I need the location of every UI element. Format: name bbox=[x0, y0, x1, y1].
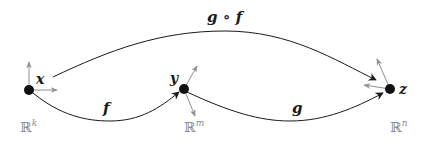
space-exponent: m bbox=[196, 118, 205, 128]
space-symbol: ℝ bbox=[390, 119, 402, 135]
point-z bbox=[385, 84, 395, 94]
map-f-label: f bbox=[102, 99, 112, 117]
space-exponent: k bbox=[32, 118, 37, 128]
composition-diagram: x y z g ∘ f f g ℝk ℝm ℝn bbox=[0, 0, 427, 145]
point-z-label: z bbox=[398, 81, 408, 97]
map-gof-label: g ∘ f bbox=[207, 8, 245, 26]
space-symbol: ℝ bbox=[20, 119, 32, 135]
space-label-x: ℝk bbox=[20, 118, 37, 135]
point-x-label: x bbox=[35, 71, 45, 87]
space-label-z: ℝn bbox=[390, 118, 408, 135]
map-gof-curve bbox=[53, 31, 376, 80]
space-label-y: ℝm bbox=[184, 118, 204, 135]
space-exponent: n bbox=[402, 118, 408, 128]
point-y bbox=[179, 84, 189, 94]
map-g-label: g bbox=[292, 99, 303, 117]
space-symbol: ℝ bbox=[184, 119, 196, 135]
tangent-vectors-z bbox=[364, 59, 390, 89]
point-x bbox=[24, 85, 34, 95]
point-y-label: y bbox=[169, 70, 179, 86]
map-g-curve bbox=[187, 92, 383, 121]
